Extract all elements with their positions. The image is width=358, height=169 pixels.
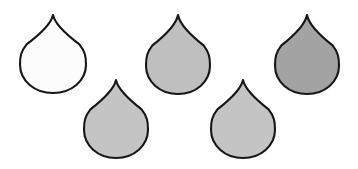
droplet-3-shape — [275, 15, 339, 94]
droplet-5-shape — [211, 80, 275, 158]
figure-canvas — [0, 0, 358, 169]
droplet-4-shape — [84, 80, 148, 158]
droplet-figure — [0, 0, 358, 169]
droplet-2-shape — [146, 15, 210, 94]
droplet-group — [20, 15, 339, 158]
droplet-1-shape — [20, 15, 86, 93]
